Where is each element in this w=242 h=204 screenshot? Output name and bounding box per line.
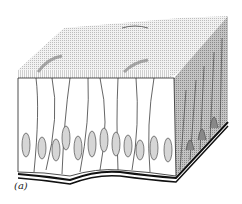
panel-label: (a) bbox=[14, 180, 28, 191]
front-face bbox=[18, 78, 176, 176]
epithelium-diagram bbox=[0, 0, 242, 204]
